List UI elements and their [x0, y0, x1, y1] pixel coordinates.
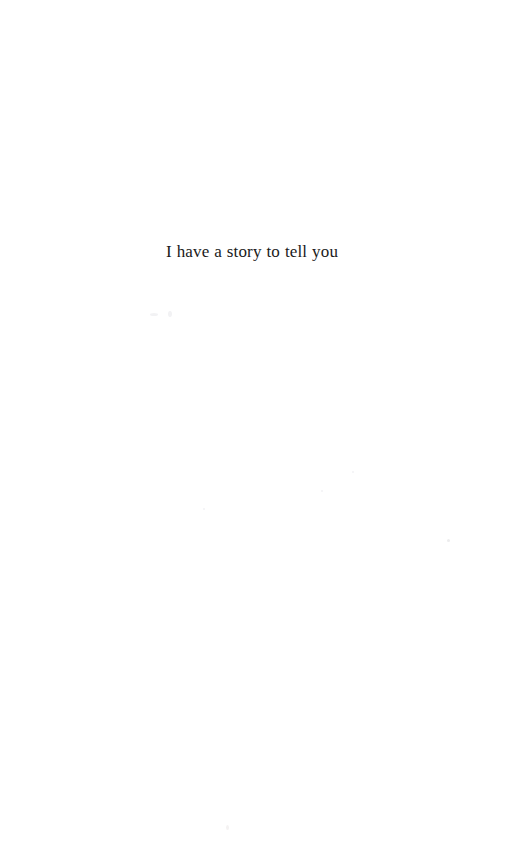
scan-speck: [352, 471, 354, 473]
body-text-line: I have a story to tell you: [0, 241, 525, 263]
scan-speck: [321, 490, 323, 492]
scan-speck: [226, 825, 229, 830]
scan-speck: [168, 311, 172, 317]
book-page: I have a story to tell you: [0, 0, 525, 861]
scan-speck: [203, 508, 205, 510]
scan-speck: [150, 313, 158, 316]
scan-speck: [447, 539, 450, 542]
